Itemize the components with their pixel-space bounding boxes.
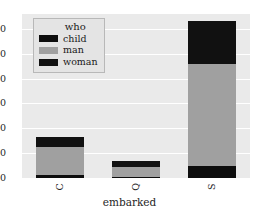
chart-figure: 0100200300400500600 CQS embarked who chi… [0, 0, 259, 215]
y-tick-label-400: 400 [0, 74, 6, 84]
legend-entry-man: man [39, 45, 98, 56]
x-tick-label-c: C [55, 177, 65, 197]
bar-segment-s-man[interactable] [188, 64, 236, 166]
legend-title: who [39, 21, 98, 33]
legend-swatch-man [39, 47, 58, 54]
legend: who childmanwoman [33, 18, 105, 73]
legend-swatch-woman [39, 59, 58, 66]
x-tick-label-s: S [207, 177, 217, 197]
bar-segment-c-woman[interactable] [36, 137, 84, 146]
y-tick-label-500: 500 [0, 49, 6, 59]
bar-group-q[interactable] [112, 14, 160, 178]
bar-segment-q-woman[interactable] [112, 161, 160, 167]
x-tick-label-q: Q [131, 177, 141, 197]
y-tick-label-0: 0 [0, 173, 6, 183]
legend-swatch-child [39, 35, 58, 42]
x-axis-label: embarked [0, 196, 259, 208]
legend-entry-woman: woman [39, 57, 98, 68]
legend-label-woman: woman [63, 57, 98, 68]
legend-label-child: child [63, 34, 87, 45]
legend-entry-child: child [39, 34, 98, 45]
bar-group-s[interactable] [188, 14, 236, 178]
y-tick-label-100: 100 [0, 148, 6, 158]
bar-segment-s-woman[interactable] [188, 21, 236, 63]
bar-segment-q-man[interactable] [112, 167, 160, 177]
legend-entries: childmanwoman [39, 34, 98, 69]
y-tick-label-200: 200 [0, 123, 6, 133]
bar-segment-c-man[interactable] [36, 147, 84, 176]
y-tick-label-600: 600 [0, 24, 6, 34]
legend-label-man: man [63, 45, 84, 56]
y-tick-label-300: 300 [0, 98, 6, 108]
